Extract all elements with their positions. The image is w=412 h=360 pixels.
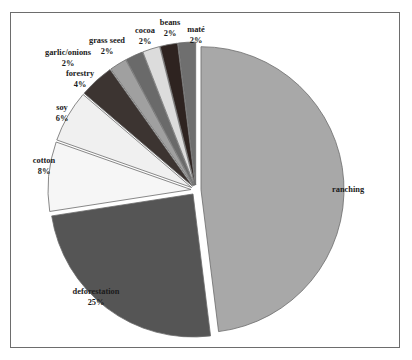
pie-slice-label: forestry (66, 69, 95, 78)
pie-slice-percent: 2% (62, 59, 75, 68)
pie-slice-label: deforestation (73, 287, 120, 296)
pie-slice[interactable] (52, 194, 211, 337)
pie-slice-percent: 25% (88, 298, 105, 307)
pie-slice-label: soy (56, 103, 68, 112)
pie-slice-percent: 2% (164, 29, 177, 38)
pie-slice-label: cocoa (135, 26, 156, 35)
pie-slice-percent: 2% (139, 37, 152, 46)
pie-slice-label: maté (187, 25, 205, 34)
pie-slice-label: garlic/onions (45, 48, 92, 57)
pie-slice-label: ranching (332, 185, 365, 194)
pie-slice-percent: 2% (190, 36, 203, 45)
pie-slice-percent: 6% (56, 114, 69, 123)
pie-chart: ranchingdeforestation25%cotton8%soy6%for… (0, 0, 412, 360)
pie-slice-label: cotton (33, 156, 56, 165)
pie-slice-percent: 2% (101, 47, 114, 56)
pie-slice-percent: 8% (38, 167, 51, 176)
pie-slice-label: beans (160, 18, 181, 27)
pie-slice-label: grass seed (89, 36, 125, 45)
pie-slice-percent: 4% (74, 80, 87, 89)
pie-slice[interactable] (201, 47, 344, 332)
pie-chart-svg: ranchingdeforestation25%cotton8%soy6%for… (0, 0, 412, 360)
